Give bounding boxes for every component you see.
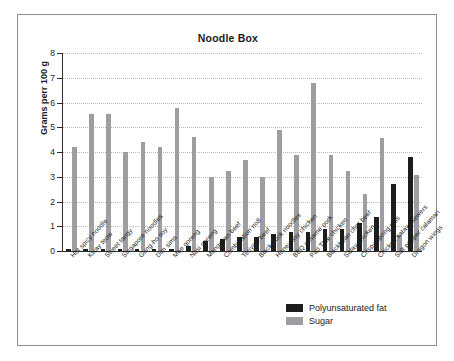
y-axis-tick-mark bbox=[57, 152, 62, 153]
y-axis-tick-mark bbox=[57, 103, 62, 104]
bar-sugar[interactable] bbox=[72, 147, 77, 251]
y-axis-tick-label: 3 bbox=[25, 172, 55, 182]
legend-item-sugar[interactable]: Sugar bbox=[286, 316, 436, 326]
y-axis-tick-mark bbox=[57, 251, 62, 252]
plot-area bbox=[63, 53, 422, 251]
bar-group bbox=[66, 53, 76, 251]
bar-group bbox=[220, 53, 230, 251]
legend-swatch-sugar-icon bbox=[286, 317, 303, 325]
chart-figure: Noodle Box 012345678 Grams perr 100 g Ho… bbox=[17, 14, 437, 346]
y-axis-tick-mark bbox=[57, 78, 62, 79]
y-axis-tick-mark bbox=[57, 127, 62, 128]
y-axis-tick-mark bbox=[57, 53, 62, 54]
y-axis-title: Grams perr 100 g bbox=[39, 38, 49, 158]
legend-label-fat: Polyunsaturated fat bbox=[309, 303, 387, 313]
y-axis-tick-labels: 012345678 bbox=[18, 15, 55, 347]
bar-group bbox=[374, 53, 384, 251]
y-axis-tick-label: 0 bbox=[25, 246, 55, 256]
y-axis-tick-mark bbox=[57, 202, 62, 203]
bar-group bbox=[203, 53, 213, 251]
y-axis-tick-mark bbox=[57, 177, 62, 178]
bar-group bbox=[271, 53, 281, 251]
y-axis-tick-label: 2 bbox=[25, 197, 55, 207]
bar-group bbox=[118, 53, 128, 251]
bar-sugar[interactable] bbox=[175, 108, 180, 251]
legend-swatch-fat-icon bbox=[286, 304, 303, 312]
bar-group bbox=[135, 53, 145, 251]
y-axis-tick-label: 1 bbox=[25, 221, 55, 231]
page-title: Noodle Box bbox=[18, 32, 438, 44]
y-axis-tick-mark bbox=[57, 226, 62, 227]
legend-item-polyunsaturated-fat[interactable]: Polyunsaturated fat bbox=[286, 303, 436, 313]
x-axis-tick-labels: Hot spicy noodleKway teowSweet tangySing… bbox=[63, 252, 422, 344]
bar-group bbox=[83, 53, 93, 251]
legend-label-sugar: Sugar bbox=[309, 316, 333, 326]
bar-group bbox=[186, 53, 196, 251]
chart-legend: Polyunsaturated fat Sugar bbox=[286, 303, 436, 329]
bar-group bbox=[169, 53, 179, 251]
